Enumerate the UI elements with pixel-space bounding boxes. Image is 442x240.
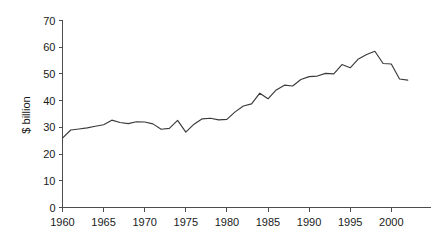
x-tick-label: 1980 — [215, 216, 239, 228]
y-axis-title: $ billion — [20, 96, 32, 133]
y-axis: 010203040506070 $ billion — [20, 15, 63, 214]
y-tick-label: 40 — [43, 95, 55, 107]
x-tick-label: 1995 — [338, 216, 362, 228]
x-tick-group: 196019651970197519801985199019952000 — [50, 208, 403, 228]
y-tick-label: 50 — [43, 68, 55, 80]
x-tick-label: 1990 — [297, 216, 321, 228]
x-axis: 196019651970197519801985199019952000 — [50, 208, 430, 228]
x-tick-label: 1965 — [91, 216, 115, 228]
x-tick-label: 1960 — [50, 216, 74, 228]
line-chart: 010203040506070 $ billion 19601965197019… — [0, 0, 442, 240]
y-tick-label: 10 — [43, 175, 55, 187]
y-tick-label: 60 — [43, 41, 55, 53]
x-tick-label: 1970 — [132, 216, 156, 228]
data-series-line — [63, 51, 408, 138]
y-tick-group: 010203040506070 — [43, 15, 62, 214]
plot-area — [63, 51, 408, 138]
y-tick-label: 30 — [43, 121, 55, 133]
y-tick-label: 0 — [49, 202, 55, 214]
x-tick-label: 2000 — [379, 216, 403, 228]
y-tick-label: 70 — [43, 15, 55, 27]
chart-page: 010203040506070 $ billion 19601965197019… — [0, 0, 442, 240]
x-tick-label: 1985 — [256, 216, 280, 228]
y-tick-label: 20 — [43, 148, 55, 160]
x-tick-label: 1975 — [174, 216, 198, 228]
